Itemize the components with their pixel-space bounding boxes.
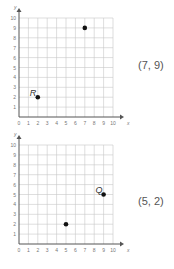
y-tick-label: 9	[13, 152, 16, 158]
x-tick-label: 5	[65, 247, 68, 253]
x-tick-label: 0	[18, 247, 21, 253]
x-tick-label: 1	[27, 247, 30, 253]
y-tick-label: 8	[13, 35, 16, 41]
x-tick-label: 8	[93, 247, 96, 253]
grid-svg: 01234567891012345678910xyR	[0, 0, 130, 135]
y-tick-label: 5	[13, 192, 16, 198]
y-tick-label: 10	[10, 142, 16, 148]
grid-svg: 01234567891012345678910xyQ	[0, 128, 130, 263]
x-tick-label: 9	[102, 120, 105, 126]
data-point	[64, 222, 69, 227]
y-tick-label: 4	[13, 201, 16, 207]
x-axis-arrow-icon	[120, 242, 124, 247]
x-tick-label: 10	[110, 120, 116, 126]
x-tick-label: 6	[74, 120, 77, 126]
x-tick-label: 2	[36, 247, 39, 253]
y-tick-label: 6	[13, 55, 16, 61]
y-tick-label: 3	[13, 84, 16, 90]
y-tick-label: 2	[13, 94, 16, 100]
y-tick-label: 6	[13, 182, 16, 188]
y-tick-label: 1	[13, 104, 16, 110]
x-tick-label: 10	[110, 247, 116, 253]
x-tick-label: 2	[36, 120, 39, 126]
x-tick-label: 6	[74, 247, 77, 253]
y-tick-label: 7	[13, 45, 16, 51]
x-tick-label: 7	[83, 120, 86, 126]
x-axis-arrow-icon	[120, 115, 124, 120]
x-axis-label: x	[126, 120, 130, 126]
y-tick-label: 1	[13, 231, 16, 237]
coordinate-grid-bottom: 01234567891012345678910xyQ	[0, 128, 130, 263]
x-tick-label: 9	[102, 247, 105, 253]
x-tick-label: 8	[93, 120, 96, 126]
coordinate-grid-top: 01234567891012345678910xyR	[0, 0, 130, 128]
x-tick-label: 5	[65, 120, 68, 126]
answer-top: (7, 9)	[138, 59, 164, 71]
data-point	[83, 26, 88, 31]
y-tick-label: 10	[10, 15, 16, 21]
y-axis-label: y	[13, 4, 17, 10]
y-tick-label: 5	[13, 65, 16, 71]
y-axis-arrow-icon	[17, 8, 22, 12]
x-tick-label: 3	[46, 247, 49, 253]
x-tick-label: 1	[27, 120, 30, 126]
y-tick-label: 9	[13, 25, 16, 31]
point-label: R	[30, 88, 37, 98]
y-tick-label: 8	[13, 162, 16, 168]
x-tick-label: 7	[83, 247, 86, 253]
y-tick-label: 7	[13, 172, 16, 178]
x-tick-label: 4	[55, 120, 58, 126]
x-tick-label: 3	[46, 120, 49, 126]
x-tick-label: 4	[55, 247, 58, 253]
x-axis-label: x	[126, 247, 130, 253]
point-label: Q	[96, 185, 103, 195]
y-tick-label: 3	[13, 211, 16, 217]
y-axis-arrow-icon	[17, 135, 22, 139]
answer-bottom: (5, 2)	[138, 195, 164, 207]
x-tick-label: 0	[18, 120, 21, 126]
y-axis-label: y	[13, 131, 17, 137]
y-tick-label: 4	[13, 74, 16, 80]
y-tick-label: 2	[13, 221, 16, 227]
